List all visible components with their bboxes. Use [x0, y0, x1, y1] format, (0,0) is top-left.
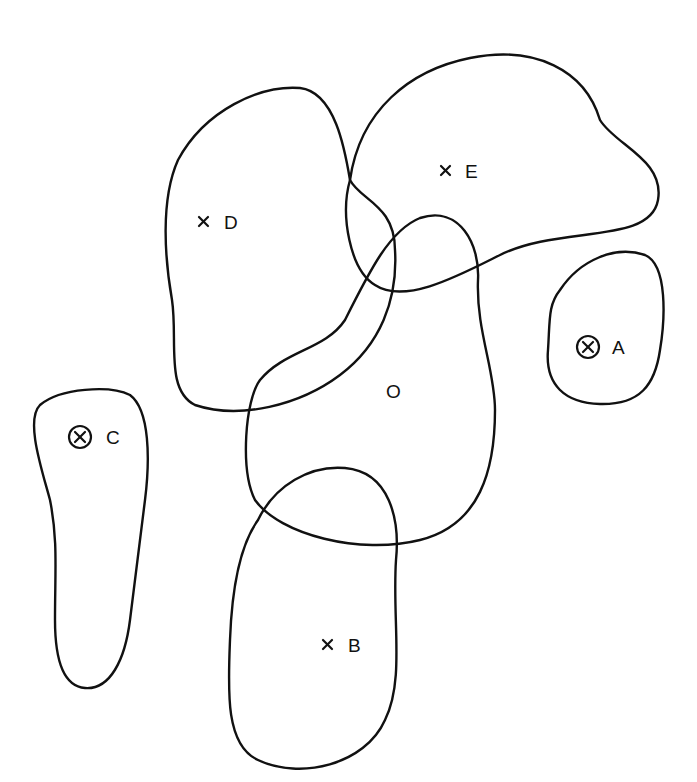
label-o: O: [386, 381, 401, 402]
x-marker-icon: [441, 166, 450, 175]
label-a: A: [612, 337, 625, 358]
circled-x-icon: [69, 426, 91, 448]
label-b: B: [348, 635, 361, 656]
label-d: D: [224, 212, 238, 233]
region-a: [548, 252, 664, 404]
label-c: C: [106, 427, 120, 448]
region-e: [346, 55, 658, 292]
regions-diagram: O A B C D E: [0, 0, 697, 782]
label-e: E: [465, 161, 478, 182]
region-o: [246, 215, 495, 545]
diagram-canvas: O A B C D E: [0, 0, 697, 782]
x-marker-icon: [199, 217, 208, 226]
circled-x-icon: [577, 336, 599, 358]
region-b: [229, 468, 397, 769]
x-marker-icon: [323, 640, 332, 649]
